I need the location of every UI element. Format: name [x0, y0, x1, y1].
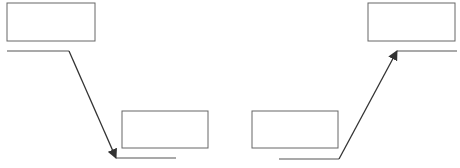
right-target-box: [368, 3, 455, 41]
right-up-arrow: [339, 51, 397, 159]
left-target-box: [122, 111, 208, 148]
left-down-arrow: [69, 51, 116, 158]
right-source-box: [252, 111, 338, 148]
diagram-canvas: [0, 0, 460, 168]
left-group: [7, 3, 208, 158]
right-group: [252, 3, 457, 159]
left-source-box: [7, 3, 95, 41]
